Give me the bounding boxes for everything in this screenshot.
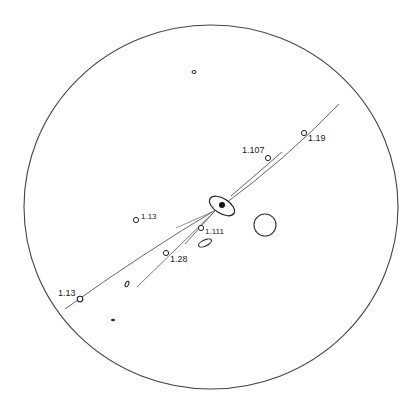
label-1-107: 1.107 bbox=[242, 145, 265, 155]
mean-pole-dot bbox=[219, 202, 225, 208]
point-1-111 bbox=[198, 225, 203, 230]
stereonet-diagram: 1.19 1.107 1.13 1.111 1.28 1.13 bbox=[0, 0, 417, 406]
stereonet-svg: 1.19 1.107 1.13 1.111 1.28 1.13 bbox=[0, 0, 417, 406]
primitive-circle bbox=[24, 25, 398, 389]
point-1-28 bbox=[163, 250, 168, 255]
label-1-28: 1.28 bbox=[170, 254, 188, 264]
label-1-19: 1.19 bbox=[308, 133, 326, 143]
small-ellipse-center bbox=[197, 237, 212, 248]
label-1-111: 1.111 bbox=[205, 227, 224, 236]
point-1-13-lower bbox=[77, 296, 83, 302]
small-mark-top bbox=[192, 71, 196, 74]
small-ellipse-left bbox=[124, 281, 129, 288]
point-1-107 bbox=[265, 155, 270, 160]
point-1-19 bbox=[301, 130, 306, 135]
point-1-13-upper bbox=[133, 217, 138, 222]
small-dot-bottom bbox=[111, 319, 115, 322]
label-1-13-lower: 1.13 bbox=[58, 288, 76, 298]
upper-parallel-line bbox=[231, 152, 282, 196]
lower-line-a bbox=[137, 211, 215, 287]
large-open-circle bbox=[254, 214, 276, 236]
great-circle-trace bbox=[65, 104, 339, 309]
label-1-13-upper: 1.13 bbox=[141, 212, 157, 221]
